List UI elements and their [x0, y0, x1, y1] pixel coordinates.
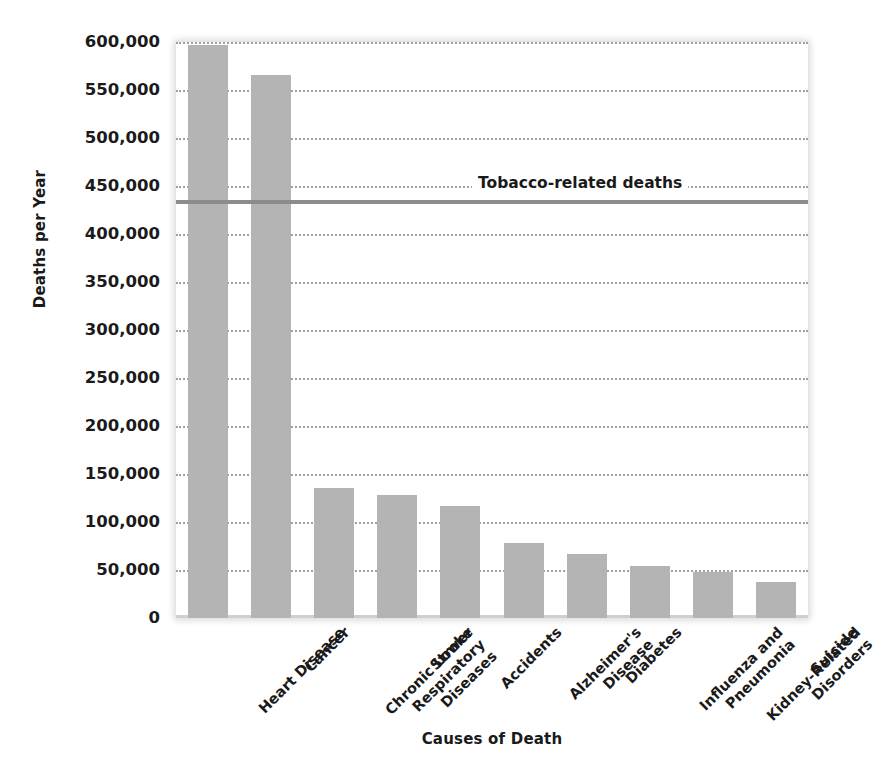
- y-axis-tick-label: 250,000: [50, 370, 160, 387]
- y-axis-tick-label: 300,000: [50, 322, 160, 339]
- plot-area: Tobacco-related deaths: [176, 42, 808, 618]
- plot-inner: Tobacco-related deaths: [176, 42, 808, 618]
- y-axis-tick-label: 500,000: [50, 130, 160, 147]
- y-axis-tick-label: 150,000: [50, 466, 160, 483]
- bar: [630, 566, 670, 618]
- bar: [440, 506, 480, 618]
- bar: [314, 488, 354, 618]
- gridline: [176, 42, 808, 44]
- bar: [756, 582, 796, 618]
- bar: [504, 543, 544, 618]
- y-axis-tick-label: 0: [50, 610, 160, 627]
- bar: [251, 75, 291, 618]
- y-axis-tick-label: 600,000: [50, 34, 160, 51]
- bar: [567, 554, 607, 618]
- y-axis-tick-label: 100,000: [50, 514, 160, 531]
- y-axis-tick-label: 550,000: [50, 82, 160, 99]
- x-axis-tick-label: Accidents: [498, 624, 566, 692]
- reference-line: [176, 200, 808, 204]
- y-axis-tick-label: 400,000: [50, 226, 160, 243]
- bar: [693, 572, 733, 618]
- y-axis-tick-label: 200,000: [50, 418, 160, 435]
- x-axis-title: Causes of Death: [176, 730, 808, 748]
- x-axis-tick-labels: Heart DiseaseCancerChronic LowerRespirat…: [176, 618, 808, 728]
- y-axis-tick-labels: 050,000100,000150,000200,000250,000300,0…: [60, 42, 168, 618]
- bar: [188, 45, 228, 618]
- y-axis-tick-label: 350,000: [50, 274, 160, 291]
- reference-line-label: Tobacco-related deaths: [472, 174, 688, 192]
- y-axis-title: Deaths per Year: [31, 139, 49, 339]
- y-axis-tick-label: 50,000: [50, 562, 160, 579]
- bar: [377, 495, 417, 618]
- x-axis-tick-label: Chronic LowerRespiratoryDiseases: [382, 624, 501, 743]
- y-axis-tick-label: 450,000: [50, 178, 160, 195]
